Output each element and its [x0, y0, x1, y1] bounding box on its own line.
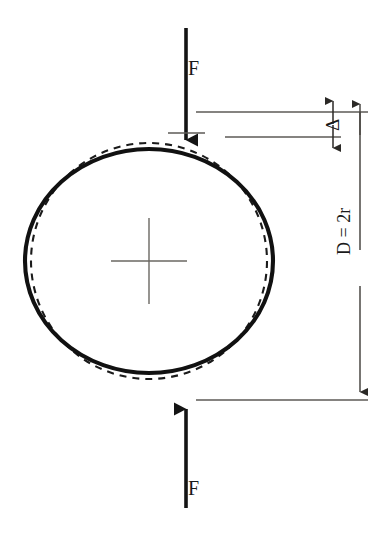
deflection-label-delta: Δ: [322, 119, 344, 131]
diameter-label: D = 2r: [334, 208, 355, 255]
extension-lines: [168, 112, 368, 400]
figure-canvas: F F Δ D = 2r: [0, 0, 378, 539]
force-label-bottom: F: [188, 478, 199, 498]
center-mark-crosshair: [111, 218, 187, 304]
force-label-top: F: [188, 58, 199, 78]
compression-diagram: [0, 0, 378, 539]
